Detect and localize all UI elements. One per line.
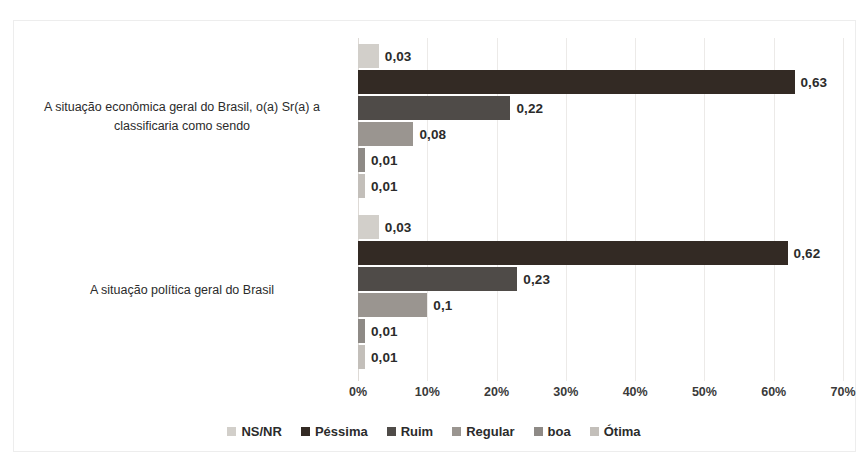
chart-legend: NS/NRPéssimaRuimRegularboaÓtima — [0, 424, 868, 439]
bar-value-label: 0,23 — [523, 272, 550, 287]
bar-row: 0,08 — [358, 122, 843, 146]
bar-boa[interactable] — [358, 148, 365, 172]
bar-regular[interactable] — [358, 293, 427, 317]
bar-chart: A situação econômica geral do Brasil, o(… — [0, 0, 868, 459]
bar-row: 0,01 — [358, 319, 843, 343]
x-axis-tick-label: 30% — [553, 385, 578, 399]
bar-group-politica: 0,030,620,230,10,010,01 — [358, 215, 843, 371]
legend-item-regular[interactable]: Regular — [452, 424, 514, 439]
bar-value-label: 0,03 — [385, 49, 412, 64]
legend-label: NS/NR — [241, 424, 281, 439]
bar--tima[interactable] — [358, 174, 365, 198]
legend-label: Ruim — [401, 424, 434, 439]
category-label-politica: A situação política geral do Brasil — [14, 281, 350, 300]
bar-row: 0,01 — [358, 174, 843, 198]
bar-regular[interactable] — [358, 122, 413, 146]
bar-row: 0,01 — [358, 148, 843, 172]
legend-label: boa — [548, 424, 571, 439]
bar-value-label: 0,03 — [385, 220, 412, 235]
bar-row: 0,22 — [358, 96, 843, 120]
x-axis-tick-label: 60% — [761, 385, 786, 399]
bar-group-economica: 0,030,630,220,080,010,01 — [358, 44, 843, 200]
bar-p-ssima[interactable] — [358, 241, 788, 265]
bar-value-label: 0,62 — [794, 246, 821, 261]
bar--tima[interactable] — [358, 345, 365, 369]
bar-row: 0,1 — [358, 293, 843, 317]
legend-swatch-icon — [301, 427, 310, 436]
legend-swatch-icon — [590, 427, 599, 436]
bar-ns-nr[interactable] — [358, 44, 379, 68]
bar-row: 0,01 — [358, 345, 843, 369]
legend-swatch-icon — [227, 427, 236, 436]
bar-ruim[interactable] — [358, 96, 510, 120]
legend-swatch-icon — [534, 427, 543, 436]
legend-item-ruim[interactable]: Ruim — [387, 424, 434, 439]
legend-item--tima[interactable]: Ótima — [590, 424, 641, 439]
legend-label: Ótima — [604, 424, 641, 439]
bar-value-label: 0,01 — [371, 153, 398, 168]
bar-boa[interactable] — [358, 319, 365, 343]
gridline — [843, 38, 844, 381]
bar-value-label: 0,01 — [371, 324, 398, 339]
bar-row: 0,23 — [358, 267, 843, 291]
category-label-economica: A situação econômica geral do Brasil, o(… — [14, 98, 350, 136]
bar-value-label: 0,22 — [516, 101, 543, 116]
legend-item-ns-nr[interactable]: NS/NR — [227, 424, 281, 439]
bar-row: 0,03 — [358, 44, 843, 68]
x-axis-tick-label: 0% — [349, 385, 367, 399]
bar-row: 0,03 — [358, 215, 843, 239]
legend-item-boa[interactable]: boa — [534, 424, 571, 439]
bar-p-ssima[interactable] — [358, 70, 795, 94]
legend-swatch-icon — [387, 427, 396, 436]
bar-value-label: 0,01 — [371, 179, 398, 194]
x-axis-tick-label: 20% — [484, 385, 509, 399]
x-axis-tick-label: 70% — [830, 385, 855, 399]
bar-row: 0,63 — [358, 70, 843, 94]
bar-value-label: 0,63 — [801, 75, 828, 90]
bar-row: 0,62 — [358, 241, 843, 265]
bar-ruim[interactable] — [358, 267, 517, 291]
bar-value-label: 0,1 — [433, 298, 452, 313]
x-axis-tick-label: 10% — [415, 385, 440, 399]
plot-area: 0,030,630,220,080,010,01 0,030,620,230,1… — [358, 38, 843, 381]
bar-value-label: 0,01 — [371, 350, 398, 365]
bar-value-label: 0,08 — [419, 127, 446, 142]
x-axis-tick-label: 50% — [692, 385, 717, 399]
legend-item-p-ssima[interactable]: Péssima — [301, 424, 368, 439]
legend-label: Péssima — [315, 424, 368, 439]
legend-swatch-icon — [452, 427, 461, 436]
x-axis: 0%10%20%30%40%50%60%70% — [358, 385, 843, 405]
legend-label: Regular — [466, 424, 514, 439]
x-axis-tick-label: 40% — [623, 385, 648, 399]
bar-ns-nr[interactable] — [358, 215, 379, 239]
